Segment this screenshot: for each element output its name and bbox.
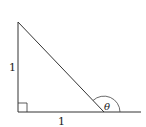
angle-theta-label: θ xyxy=(104,101,110,112)
vertical-side-label: 1 xyxy=(9,61,16,74)
hypotenuse xyxy=(18,22,104,112)
right-angle-marker xyxy=(18,103,27,112)
triangle-diagram: 1 1 θ xyxy=(0,0,146,127)
horizontal-side-label: 1 xyxy=(58,115,65,127)
